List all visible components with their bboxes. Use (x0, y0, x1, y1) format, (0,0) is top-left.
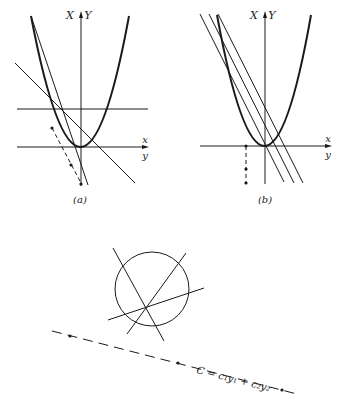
panel-c-dot (68, 334, 71, 337)
panel-b-vertical-arrow-icon (263, 11, 267, 18)
panel-a-label-Y: Y (84, 9, 93, 22)
panel-b-parabola (217, 15, 311, 146)
panel-c-line-2 (127, 253, 186, 334)
panel-a-horizontal-arrow-icon (142, 145, 149, 149)
panel-c-dot (176, 361, 179, 364)
panel-a-vertical-arrow-icon (79, 11, 83, 18)
panel-c-circle (115, 252, 189, 326)
panel-c-equation-label: C = c₁y₁ + c₂y₂ (196, 364, 272, 393)
panel-a-diagonal-line (15, 63, 135, 183)
panel-b-horizontal-arrow-icon (325, 144, 332, 148)
panel-b-label-y: y (324, 149, 331, 160)
panel-b-dot (244, 181, 247, 184)
panel-b-caption: (b) (258, 194, 272, 205)
panel-a-dot (69, 163, 72, 166)
panel-a-label-x: x (142, 134, 148, 145)
panel-a-steep-line (31, 16, 88, 185)
panel-b-parallel-line-3 (218, 14, 303, 183)
panel-c-dot (280, 388, 283, 391)
figure-canvas: X Y x y (a) X Y x y (b) C = c₁y₁ + c₂y₂ (0, 0, 345, 403)
panel-b-label-x: x (325, 133, 331, 144)
panel-a-label-X: X (65, 9, 75, 22)
panel-b-label-Y: Y (268, 9, 277, 22)
panel-a-label-y: y (141, 150, 148, 161)
panel-b-label-X: X (249, 9, 259, 22)
panel-a-dot (50, 126, 53, 129)
panel-b-parallel-line-2 (209, 14, 294, 183)
panel-b-dot (244, 144, 247, 147)
panel-a (15, 11, 149, 186)
panel-b (200, 11, 332, 185)
panel-a-caption: (a) (73, 194, 87, 205)
panel-c-line-3 (108, 288, 204, 320)
panel-a-dot (79, 182, 82, 185)
panel-c (52, 248, 297, 394)
panel-b-dot (244, 167, 247, 170)
panel-b-parallel-line-1 (200, 14, 284, 182)
